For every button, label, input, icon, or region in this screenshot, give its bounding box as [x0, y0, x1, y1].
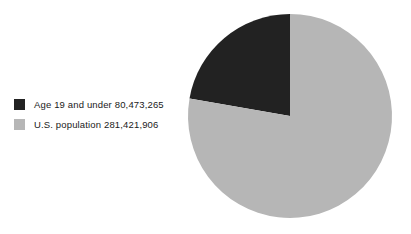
pie-slice-age-19-and-under[interactable] — [190, 14, 290, 116]
legend-item[interactable]: U.S. population 281,421,906 — [14, 114, 204, 134]
pie-chart-figure: Age 19 and under 80,473,265 U.S. populat… — [0, 0, 411, 234]
legend-item-label: Age 19 and under 80,473,265 — [34, 99, 164, 110]
legend-item-label: U.S. population 281,421,906 — [34, 119, 158, 130]
chart-legend: Age 19 and under 80,473,265 U.S. populat… — [14, 94, 204, 134]
legend-item[interactable]: Age 19 and under 80,473,265 — [14, 94, 204, 114]
legend-swatch-light — [14, 119, 25, 130]
pie-slices — [188, 14, 392, 218]
legend-swatch-dark — [14, 99, 25, 110]
